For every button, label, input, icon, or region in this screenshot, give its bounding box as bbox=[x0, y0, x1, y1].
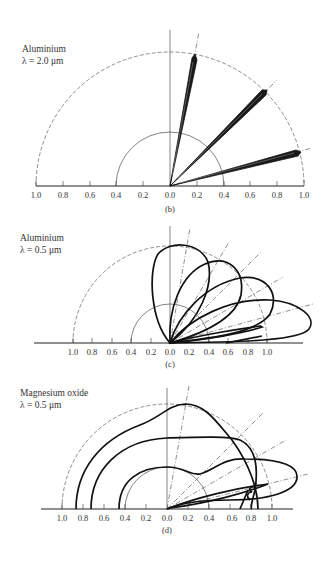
panel-c-material: Aluminium bbox=[20, 233, 64, 243]
x-tick-labels: 1.0 0.8 0.6 0.4 0.2 0.0 0.2 0.4 0.6 0.8 … bbox=[31, 190, 310, 200]
panel-c-wavelength: λ = 0.5 μm bbox=[20, 245, 62, 255]
svg-text:0.2: 0.2 bbox=[192, 190, 203, 200]
lobe-80 bbox=[170, 54, 197, 186]
panel-b: Aluminium λ = 2.0 μm 1.0 0.8 0.6 0.4 0. bbox=[22, 30, 312, 214]
panel-d-wavelength: λ = 0.5 μm bbox=[20, 400, 62, 410]
svg-text:0.0: 0.0 bbox=[165, 190, 176, 200]
panel-d-caption: (d) bbox=[162, 525, 172, 535]
ray-30 bbox=[167, 440, 286, 509]
svg-text:0.6: 0.6 bbox=[245, 190, 256, 200]
svg-text:0.4: 0.4 bbox=[120, 513, 131, 523]
svg-text:0.2: 0.2 bbox=[183, 513, 194, 523]
svg-text:1.0: 1.0 bbox=[267, 513, 278, 523]
svg-text:0.8: 0.8 bbox=[243, 347, 254, 357]
panel-c-caption: (c) bbox=[165, 359, 175, 369]
svg-text:0.6: 0.6 bbox=[107, 347, 118, 357]
svg-text:0.2: 0.2 bbox=[141, 513, 152, 523]
svg-text:0.4: 0.4 bbox=[204, 513, 215, 523]
panel-d: Magnesium oxide λ = 0.5 μm 1.0 0.8 0.6 0 bbox=[20, 386, 308, 535]
svg-text:0.2: 0.2 bbox=[184, 347, 195, 357]
svg-text:0.0: 0.0 bbox=[165, 347, 176, 357]
svg-text:0.8: 0.8 bbox=[87, 347, 98, 357]
svg-text:0.2: 0.2 bbox=[146, 347, 157, 357]
panel-d-material: Magnesium oxide bbox=[20, 388, 88, 398]
lobe-45 bbox=[170, 278, 273, 343]
svg-text:0.4: 0.4 bbox=[126, 347, 137, 357]
figure-canvas: Aluminium λ = 2.0 μm 1.0 0.8 0.6 0.4 0. bbox=[0, 0, 328, 561]
svg-text:0.8: 0.8 bbox=[58, 190, 69, 200]
svg-text:0.8: 0.8 bbox=[272, 190, 283, 200]
svg-text:0.4: 0.4 bbox=[219, 190, 230, 200]
x-tick-labels: 1.0 0.8 0.6 0.4 0.2 0.0 0.2 0.4 0.6 0.8 … bbox=[68, 347, 273, 357]
svg-text:0.8: 0.8 bbox=[246, 513, 257, 523]
svg-text:0.2: 0.2 bbox=[138, 190, 149, 200]
panel-b-wavelength: λ = 2.0 μm bbox=[22, 56, 64, 66]
svg-text:1.0: 1.0 bbox=[262, 347, 273, 357]
panel-b-caption: (b) bbox=[165, 204, 175, 214]
lobe-80 bbox=[152, 245, 209, 343]
svg-text:0.0: 0.0 bbox=[162, 513, 173, 523]
svg-text:1.0: 1.0 bbox=[31, 190, 42, 200]
curve-2 bbox=[91, 437, 256, 509]
svg-text:0.4: 0.4 bbox=[111, 190, 122, 200]
svg-text:0.6: 0.6 bbox=[85, 190, 96, 200]
x-tick-labels: 1.0 0.8 0.6 0.4 0.2 0.0 0.2 0.4 0.6 0.8 … bbox=[57, 513, 278, 523]
svg-text:0.6: 0.6 bbox=[223, 347, 234, 357]
panel-b-material: Aluminium bbox=[22, 44, 66, 54]
svg-text:1.0: 1.0 bbox=[57, 513, 68, 523]
svg-text:0.6: 0.6 bbox=[227, 513, 238, 523]
svg-text:0.6: 0.6 bbox=[99, 513, 110, 523]
svg-text:1.0: 1.0 bbox=[68, 347, 79, 357]
svg-text:1.0: 1.0 bbox=[299, 190, 310, 200]
panel-c: Aluminium λ = 0.5 μm 1.0 0.8 0.6 0. bbox=[20, 226, 313, 369]
svg-text:0.8: 0.8 bbox=[78, 513, 89, 523]
svg-text:0.4: 0.4 bbox=[204, 347, 215, 357]
